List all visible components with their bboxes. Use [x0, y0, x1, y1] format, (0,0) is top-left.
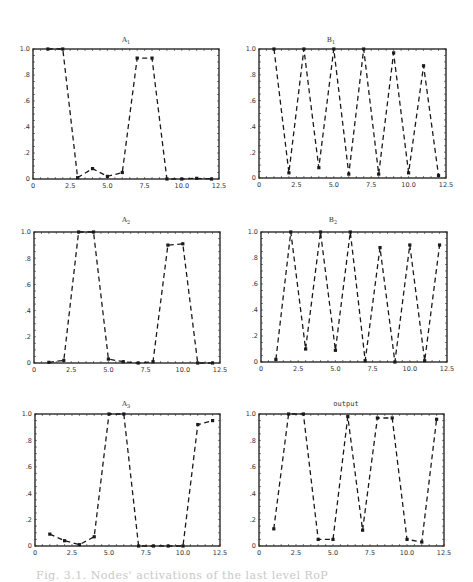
x-tick-label: 10.0	[400, 549, 414, 557]
data-point-marker	[272, 527, 275, 530]
x-tick-label: 0	[257, 549, 261, 557]
data-point-marker	[317, 538, 320, 541]
y-tick-label: .2	[250, 516, 256, 524]
data-point-marker	[405, 538, 408, 541]
y-tick-label: .8	[250, 437, 256, 445]
y-tick-label: 1.0	[246, 410, 256, 418]
data-point-marker	[391, 416, 394, 419]
x-tick-label: 2.5	[291, 549, 301, 557]
y-tick-label: .4	[250, 490, 256, 498]
data-point-marker	[346, 415, 349, 418]
x-tick-label: 5.0	[328, 549, 338, 557]
data-point-marker	[376, 416, 379, 419]
data-point-marker	[361, 529, 364, 532]
data-point-marker	[435, 418, 438, 421]
x-tick-label: 12.5	[437, 549, 451, 557]
y-tick-label: 0	[252, 542, 256, 550]
y-tick-label: .6	[250, 463, 256, 471]
data-point-marker	[287, 412, 290, 415]
data-series-line	[274, 414, 437, 542]
x-tick-label: 7.5	[365, 549, 375, 557]
data-point-marker	[302, 412, 305, 415]
figure-caption: Fig. 3.1. Nodes' activations of the last…	[36, 569, 328, 582]
plot-frame	[259, 414, 444, 546]
data-point-marker	[331, 538, 334, 541]
data-point-marker	[420, 540, 423, 543]
